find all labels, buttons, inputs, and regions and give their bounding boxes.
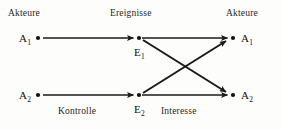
node-label-a2-left-sub: 2 (27, 95, 31, 104)
node-label-a2-left-base: A (19, 89, 27, 101)
node-label-a1-right: A1 (241, 32, 253, 44)
node-label-e2-sub: 2 (141, 109, 145, 118)
node-label-a2-left: A2 (19, 89, 31, 101)
node-dot-a2-left (36, 93, 40, 97)
node-label-a1-left-sub: 1 (27, 38, 31, 47)
column-header-right: Akteure (226, 8, 258, 18)
node-label-a1-left: A1 (19, 32, 31, 44)
column-header-middle: Ereignisse (110, 8, 152, 18)
node-dot-e2 (137, 93, 141, 97)
node-label-e2: E2 (134, 103, 144, 115)
edge-group-label-kontrolle: Kontrolle (58, 106, 96, 116)
node-dot-e1 (137, 36, 141, 40)
column-header-left: Akteure (8, 8, 40, 18)
node-label-a2-right-base: A (241, 89, 249, 101)
node-label-a1-right-base: A (241, 32, 249, 44)
node-label-e1: E1 (134, 46, 144, 58)
node-dot-a2-right (231, 93, 235, 97)
node-label-e1-sub: 1 (141, 52, 145, 61)
node-label-a2-right-sub: 2 (249, 95, 253, 104)
edge-group-label-interesse: Interesse (161, 106, 197, 116)
node-label-a2-right: A2 (241, 89, 253, 101)
node-dot-a1-right (231, 36, 235, 40)
node-dot-a1-left (36, 36, 40, 40)
diagram-canvas: Akteure Ereignisse Akteure A1 A2 E1 E2 A… (0, 0, 282, 130)
node-label-a1-right-sub: 1 (249, 38, 253, 47)
node-label-e2-base: E (134, 103, 141, 115)
node-label-e1-base: E (134, 46, 141, 58)
node-label-a1-left-base: A (19, 32, 27, 44)
